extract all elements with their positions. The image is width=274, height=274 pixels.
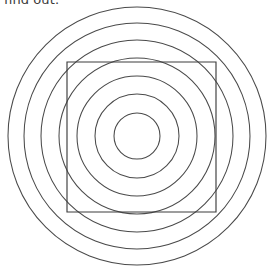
circle-2 [95,94,179,178]
circle-7-outermost [8,7,266,265]
circle-4 [59,58,215,214]
circle-5 [41,40,233,232]
concentric-circles-diagram [0,0,274,274]
figure-canvas: find out. [0,0,274,274]
caption-label: find out. [4,0,59,7]
circle-1-innermost [114,113,160,159]
